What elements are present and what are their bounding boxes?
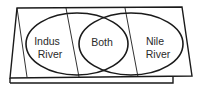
venn-diagram-foldable: Indus River Both Nile River <box>0 0 200 92</box>
right-set-label-line1: Nile <box>146 35 164 47</box>
right-set-label-line2: River <box>146 48 171 60</box>
left-set-label-line2: River <box>38 48 63 60</box>
left-set-label-line1: Indus <box>34 35 60 47</box>
venn-diagram-svg: Indus River Both Nile River <box>0 0 200 92</box>
intersection-label: Both <box>91 36 113 48</box>
